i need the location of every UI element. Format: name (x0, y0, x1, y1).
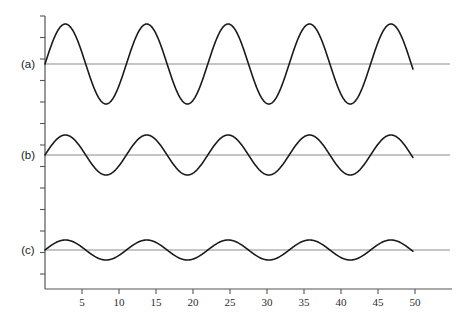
x-tick-label: 15 (151, 296, 163, 308)
x-tick-label: 40 (336, 296, 348, 308)
waveform-plot: 5101520253035404550 (a)(b)(c) (0, 0, 471, 319)
x-tick-label: 45 (373, 296, 385, 308)
baselines-group (45, 64, 450, 250)
x-tick-label: 10 (114, 296, 126, 308)
x-tick-label: 25 (225, 296, 237, 308)
x-tick-label: 20 (188, 296, 200, 308)
x-tick-label: 5 (79, 296, 85, 308)
curves-group (45, 24, 413, 260)
waveform-figure: 5101520253035404550 (a)(b)(c) (0, 0, 471, 319)
series-label-b: (b) (21, 149, 35, 161)
series-label-c: (c) (21, 244, 35, 256)
x-tick-label: 35 (299, 296, 311, 308)
x-tick-labels: 5101520253035404550 (79, 296, 421, 308)
x-tick-label: 30 (262, 296, 274, 308)
series-labels: (a)(b)(c) (21, 58, 35, 256)
series-label-a: (a) (21, 58, 35, 70)
x-tick-label: 50 (410, 296, 422, 308)
